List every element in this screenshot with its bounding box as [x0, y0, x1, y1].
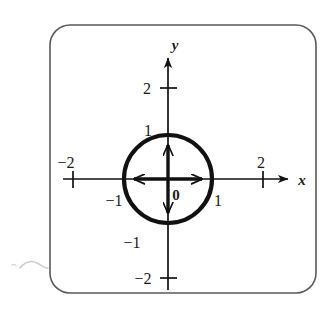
- unit-circle-figure: y x 2 −2 −2 2 1 −1 −1 1 0: [0, 0, 335, 309]
- label-x-tick-neg2: −2: [57, 154, 74, 171]
- label-y-tick-pos2: 2: [143, 80, 151, 97]
- figure-root: y x 2 −2 −2 2 1 −1 −1 1 0: [0, 0, 335, 309]
- label-y-tick-neg2: −2: [134, 270, 151, 287]
- label-origin: 0: [172, 187, 180, 203]
- label-circle-left: −1: [105, 192, 122, 209]
- label-circle-right: 1: [214, 192, 222, 209]
- label-x-axis: x: [297, 172, 306, 188]
- label-circle-top: 1: [144, 122, 152, 139]
- label-x-tick-pos2: 2: [257, 154, 265, 171]
- label-y-axis: y: [170, 37, 179, 53]
- label-circle-bottom: −1: [123, 234, 140, 251]
